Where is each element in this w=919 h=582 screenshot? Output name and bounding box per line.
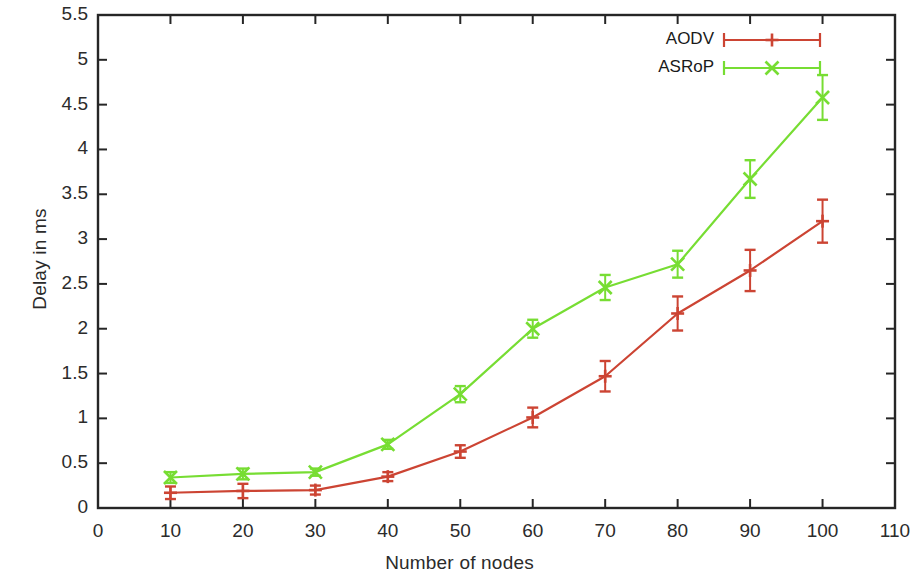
x-axis-title: Number of nodes	[0, 552, 919, 574]
y-axis-tick-label: 0.5	[26, 451, 88, 473]
x-axis-tick-label: 20	[213, 520, 273, 542]
x-axis-tick-label: 50	[430, 520, 490, 542]
x-axis-tick-label: 100	[793, 520, 853, 542]
legend-label-asrop: ASRoP	[514, 57, 714, 77]
legend-label-aodv: AODV	[514, 29, 714, 49]
y-axis-tick-label: 5.5	[26, 3, 88, 25]
legend-sample-aodv	[724, 33, 820, 47]
x-axis-tick-label: 30	[285, 520, 345, 542]
x-axis-tick-label: 70	[575, 520, 635, 542]
y-axis-tick-label: 5	[26, 48, 88, 70]
y-axis-tick-label: 2.5	[26, 272, 88, 294]
delay-vs-nodes-chart: Delay in ms Number of nodes 00.511.522.5…	[0, 0, 919, 582]
y-axis-tick-label: 4.5	[26, 93, 88, 115]
x-axis-tick-label: 40	[358, 520, 418, 542]
series-aodv	[164, 200, 829, 500]
x-axis-tick-label: 110	[865, 520, 919, 542]
y-axis-tick-label: 3.5	[26, 182, 88, 204]
series-line	[170, 221, 822, 493]
series-asrop	[164, 75, 829, 484]
y-axis-tick-label: 3	[26, 227, 88, 249]
y-axis-tick-label: 0	[26, 496, 88, 518]
y-axis-tick-label: 1.5	[26, 362, 88, 384]
x-axis-tick-label: 10	[140, 520, 200, 542]
x-axis-tick-label: 0	[68, 520, 128, 542]
plot-canvas	[0, 0, 919, 582]
y-axis-tick-label: 2	[26, 317, 88, 339]
y-axis-tick-label: 4	[26, 137, 88, 159]
legend-sample-asrop	[724, 61, 820, 75]
x-axis-tick-label: 90	[720, 520, 780, 542]
y-axis-tick-label: 1	[26, 406, 88, 428]
x-axis-tick-label: 60	[503, 520, 563, 542]
x-axis-tick-label: 80	[648, 520, 708, 542]
series-line	[170, 97, 822, 477]
